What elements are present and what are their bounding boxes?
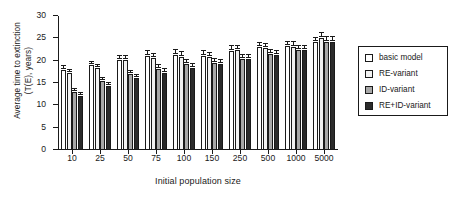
error-bar [321,32,322,37]
y-axis-tick-label: 15 [36,78,46,87]
error-bar-cap [240,54,245,55]
error-bar [304,45,305,49]
error-bar-cap [145,54,150,55]
legend-label: RE-variant [379,69,418,78]
error-bar-cap [201,54,206,55]
error-bar-cap [296,45,301,46]
error-bar [242,54,243,58]
legend-label: basic model [379,53,423,62]
bar-group [117,16,139,150]
error-bar-cap [134,76,139,77]
bar-re-variant [95,68,100,150]
error-bar-cap [263,46,268,47]
error-bar-cap [319,32,324,33]
error-bar-cap [324,36,329,37]
bar-basic-model [313,42,318,150]
error-bar-cap [229,49,234,50]
bar-basic-model [145,56,150,150]
error-bar [259,42,260,46]
error-bar-cap [229,45,234,46]
y-axis-tick-label: 5 [41,122,46,131]
y-axis-tick: 10 [53,104,58,105]
error-bar [248,54,249,58]
bar-basic-model [117,60,122,150]
y-axis-tick-label: 30 [36,11,46,20]
error-bar [130,70,131,73]
legend-swatch-icon [365,70,373,78]
error-bar [293,41,294,45]
error-bar [192,63,193,67]
legend-item-id-variant: ID-variant [365,85,415,94]
bar-basic-model [229,51,234,150]
error-bar-cap [268,49,273,50]
error-bar-cap [106,82,111,83]
x-axis-tick-label: 1000 [286,154,305,163]
error-bar-cap [162,68,167,69]
bar-group [201,16,223,150]
error-bar [276,50,277,54]
error-bar-cap [162,71,167,72]
bar-id-variant [100,81,105,150]
error-bar-cap [179,55,184,56]
error-bar [158,64,159,68]
error-bar-cap [61,65,66,66]
legend-item-re-id-variant: RE+ID-variant [365,101,431,110]
x-axis-tick-label: 25 [95,154,105,163]
bar-re-id-variant [274,55,279,150]
y-axis-tick-label: 20 [36,55,46,64]
y-axis-title: Average time to extinction (T(E), years) [13,0,34,146]
bar-basic-model [257,47,262,150]
error-bar-cap [184,62,189,63]
bar-re-variant [235,50,240,150]
error-bar-cap [212,61,217,62]
error-bar [164,68,165,72]
error-bar-cap [95,64,100,65]
legend-label: ID-variant [379,85,415,94]
error-bar-cap [151,53,156,54]
y-axis-tick: 25 [53,37,58,38]
bar-re-variant [123,60,128,150]
error-bar [298,45,299,49]
bar-re-variant [291,47,296,150]
error-bar [97,64,98,68]
error-bar-cap [302,45,307,46]
error-bar-cap [235,48,240,49]
error-bar-cap [117,55,122,56]
error-bar-cap [128,72,133,73]
error-bar-cap [151,56,156,57]
y-axis-tick-label: 0 [41,145,46,154]
y-axis-tick: 20 [53,60,58,61]
bar-group [257,16,279,150]
error-bar [63,65,64,69]
y-axis-line [58,16,59,150]
bar-id-variant [268,54,273,150]
error-bar-cap [61,68,66,69]
error-bar-cap [123,55,128,56]
error-bar [175,49,176,54]
bar-id-variant [324,42,329,150]
bar-group [145,16,167,150]
legend-swatch-icon [365,86,373,94]
x-axis-tick-label: 100 [177,154,191,163]
chart-figure: Average time to extinction (T(E), years)… [0,0,453,207]
legend-item-basic-model: basic model [365,53,423,62]
x-axis-title: Initial population size [58,176,338,186]
bar-basic-model [201,56,206,150]
error-bar-cap [313,37,318,38]
bar-re-id-variant [78,96,83,150]
error-bar-cap [274,50,279,51]
bar-re-id-variant [330,42,335,150]
bar-group [89,16,111,150]
error-bar [147,50,148,55]
error-bar-cap [72,88,77,89]
bar-re-id-variant [246,59,251,150]
error-bar-cap [257,42,262,43]
error-bar-cap [285,44,290,45]
error-bar [270,49,271,53]
bar-id-variant [156,69,161,150]
error-bar-cap [218,59,223,60]
error-bar-cap [330,36,335,37]
error-bar-cap [89,61,94,62]
x-axis-tick-label: 75 [151,154,161,163]
x-axis-tick-label: 50 [123,154,133,163]
